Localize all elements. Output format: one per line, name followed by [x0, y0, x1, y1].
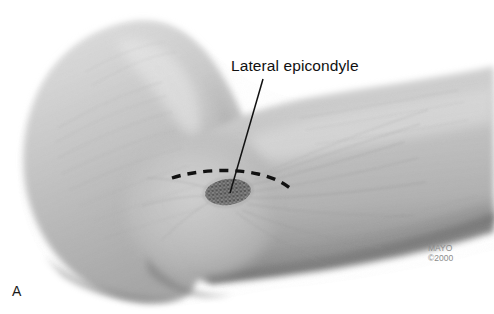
panel-letter: A [12, 283, 21, 299]
credit-line-year: ©2000 [428, 253, 453, 263]
credit-line-mayo: MAYO [428, 243, 453, 253]
credit-block: MAYO ©2000 [428, 243, 453, 263]
lateral-epicondyle-label: Lateral epicondyle [231, 57, 359, 75]
elbow-illustration [0, 0, 494, 314]
figure-panel: Lateral epicondyle MAYO ©2000 A [0, 0, 494, 314]
skin-creases [0, 0, 494, 314]
